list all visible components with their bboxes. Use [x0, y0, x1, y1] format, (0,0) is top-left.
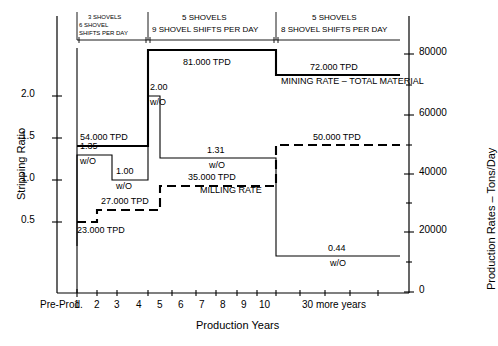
bottom-tick-label-6: 6	[178, 300, 184, 311]
label-milling-rate-name: MILLING RATE	[200, 186, 262, 195]
right-tick-label-60000: 60000	[419, 108, 447, 119]
label-mining-rate-name: MINING RATE – TOTAL MATERIAL	[281, 77, 424, 86]
bottom-tick-label-30-more-years: 30 more years	[302, 300, 366, 311]
label-sr-1.35: 1.35	[80, 142, 98, 151]
label-sr-1.00-wo: w/O	[116, 182, 132, 191]
header-seg1-line1: 3 SHOVELS	[88, 14, 121, 20]
left-tick-label-0.5: 0.5	[21, 215, 35, 226]
label-72000-tpd: 72.000 TPD	[310, 63, 358, 72]
label-sr-1.31: 1.31	[207, 146, 225, 155]
header-seg2-line2: 9 SHOVEL SHIFTS PER DAY	[152, 26, 258, 34]
label-sr-0.44-wo: w/O	[330, 259, 346, 268]
header-seg3-line2: 8 SHOVEL SHIFTS PER DAY	[281, 26, 387, 34]
bottom-tick-label-3: 3	[114, 300, 120, 311]
bottom-tick-label-10: 10	[259, 300, 270, 311]
label-27000-tpd: 27.000 TPD	[101, 197, 149, 206]
bottom-tick-label-7: 7	[199, 300, 205, 311]
bottom-tick-label-9: 9	[241, 300, 247, 311]
right-tick-label-40000: 40000	[419, 167, 447, 178]
label-sr-1.00: 1.00	[116, 167, 134, 176]
header-seg1-line3: SHIFTS PER DAY	[79, 30, 128, 36]
right-axis-title: Production Rates – Tons/Day	[486, 148, 498, 290]
label-23000-tpd: 23.000 TPD	[77, 226, 125, 235]
bottom-tick-label-2: 2	[94, 300, 100, 311]
label-sr-1.31-wo: w/O	[209, 161, 225, 170]
bottom-tick-label-5: 5	[157, 300, 163, 311]
header-seg1-line2: 6 SHOVEL	[79, 22, 108, 28]
left-axis-title: Stripping Ratio	[16, 128, 28, 200]
left-tick-label-2.0: 2.0	[21, 89, 35, 100]
label-sr-0.44: 0.44	[328, 244, 346, 253]
header-seg3-line1: 5 SHOVELS	[312, 14, 356, 22]
right-tick-label-20000: 20000	[419, 225, 447, 236]
bottom-tick-label-1: 1	[74, 300, 80, 311]
right-tick-label-80000: 80000	[419, 47, 447, 58]
header-seg2-line1: 5 SHOVELS	[182, 14, 226, 22]
label-35000-tpd: 35.000 TPD	[188, 173, 236, 182]
bottom-tick-label-8: 8	[220, 300, 226, 311]
label-81000-tpd: 81.000 TPD	[183, 58, 231, 67]
label-sr-1.35-wo: w/O	[80, 157, 96, 166]
bottom-tick-label-4: 4	[136, 300, 142, 311]
label-sr-2.00-wo: w/O	[150, 98, 166, 107]
right-tick-label-0: 0	[419, 285, 425, 296]
bottom-axis-title: Production Years	[196, 320, 279, 332]
label-50000-tpd: 50.000 TPD	[313, 133, 361, 142]
label-sr-2.00: 2.00	[150, 83, 168, 92]
